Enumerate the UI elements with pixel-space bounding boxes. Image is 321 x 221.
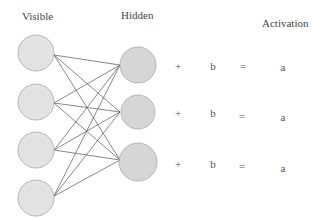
hidden-layer-label: Hidden [121,9,153,21]
plus-sign: + [175,60,181,72]
equals-sign: = [239,110,245,122]
bias-term: b [210,107,216,119]
equals-sign: = [240,60,246,72]
visible-node-2 [18,84,54,120]
visible-nodes [18,35,54,216]
hidden-node-3 [119,143,157,181]
hidden-nodes [119,47,157,181]
activation-output: a [281,61,286,73]
edges [54,55,120,196]
visible-layer-label: Visible [22,10,53,22]
bias-term: b [210,158,216,170]
equals-sign: = [239,160,245,172]
plus-sign: + [175,107,181,119]
activation-output: a [281,111,286,123]
bias-term: b [210,60,216,72]
visible-node-3 [18,132,54,168]
visible-node-4 [18,180,54,216]
visible-node-1 [18,35,54,71]
edge-v4-h2 [54,112,120,196]
activation-label: Activation [262,17,308,29]
hidden-node-1 [120,47,156,83]
plus-sign: + [175,158,181,170]
edge-v3-h1 [54,65,120,150]
edge-v4-h1 [54,65,120,196]
hidden-node-2 [121,95,155,129]
edge-v4-h3 [54,160,120,196]
activation-output: a [281,162,286,174]
network-diagram [0,0,321,221]
